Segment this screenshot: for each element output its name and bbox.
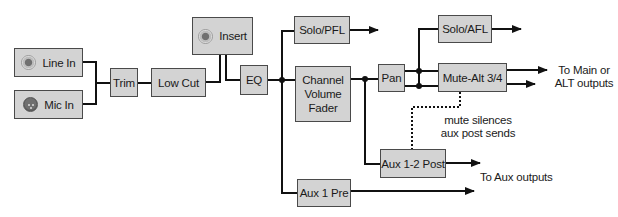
low-cut-block: Low Cut [151,68,206,97]
aux-post-label: Aux 1-2 Post [381,157,444,171]
main-outputs-line2: ALT outputs [550,77,618,90]
solo-afl-block: Solo/AFL [438,15,492,43]
pan-block: Pan [378,64,405,92]
insert-block: Insert [192,17,253,55]
trs-jack-icon [21,55,36,70]
aux-outputs-text: To Aux outputs [480,171,553,183]
mute-alt-block: Mute-Alt 3/4 [438,63,507,92]
solo-pfl-block: Solo/PFL [294,16,350,44]
mute-note: mute silences aux post sends [428,114,528,140]
xlr-connector-icon [23,97,38,112]
eq-label: EQ [246,73,262,87]
mute-note-line2: aux post sends [428,127,528,140]
trim-block: Trim [110,68,138,97]
trim-label: Trim [113,76,135,90]
line-in-label: Line In [42,56,75,70]
aux-pre-label: Aux 1 Pre [300,186,349,200]
aux-pre-block: Aux 1 Pre [297,179,351,207]
fader-label-line1: Channel [302,73,343,87]
main-outputs-label: To Main or ALT outputs [550,64,618,90]
channel-volume-fader-block: Channel Volume Fader [295,66,351,122]
fader-label-line3: Fader [308,101,337,115]
low-cut-label: Low Cut [158,76,199,90]
solo-pfl-label: Solo/PFL [299,23,345,37]
aux-outputs-label: To Aux outputs [480,171,580,184]
main-outputs-line1: To Main or [550,64,618,77]
pan-label: Pan [382,71,402,85]
mic-in-block: Mic In [14,90,83,119]
trs-jack-icon [198,29,213,44]
fader-label-line2: Volume [304,87,341,101]
eq-block: EQ [240,65,268,95]
insert-label: Insert [219,29,247,43]
solo-afl-label: Solo/AFL [442,22,488,36]
aux-post-block: Aux 1-2 Post [380,149,446,178]
mute-alt-label: Mute-Alt 3/4 [443,71,503,85]
mic-in-label: Mic In [44,98,73,112]
line-in-block: Line In [14,48,83,77]
mute-note-line1: mute silences [428,114,528,127]
